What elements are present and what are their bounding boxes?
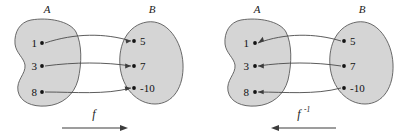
dot-b-7-forward bbox=[132, 64, 136, 68]
set-a-label-forward: A bbox=[43, 3, 51, 15]
set-b-label-forward: B bbox=[149, 3, 156, 15]
dot-a-8-forward bbox=[40, 90, 44, 94]
set-a-blob-inverse bbox=[225, 19, 291, 106]
panel-inverse: A B 1 3 8 5 7 -10 f -1 bbox=[225, 3, 393, 131]
panel-forward: A B 1 3 8 5 7 -10 f bbox=[15, 3, 183, 131]
dot-a-8-inverse bbox=[253, 90, 257, 94]
dot-b-5-inverse bbox=[342, 39, 346, 43]
set-a-blob-forward bbox=[15, 19, 81, 106]
label-b-neg10-forward: -10 bbox=[140, 82, 155, 94]
function-inverse-diagram: A B 1 3 8 5 7 -10 f bbox=[0, 0, 403, 138]
function-superscript-inverse: -1 bbox=[304, 105, 310, 114]
dot-b-neg10-forward bbox=[132, 86, 136, 90]
function-label-forward: f bbox=[92, 107, 97, 121]
dot-a-1-forward bbox=[40, 41, 44, 45]
dot-b-5-forward bbox=[132, 39, 136, 43]
label-b-5-inverse: 5 bbox=[350, 35, 356, 47]
dot-b-neg10-inverse bbox=[342, 86, 346, 90]
dot-a-3-inverse bbox=[253, 64, 257, 68]
dot-a-3-forward bbox=[40, 64, 44, 68]
label-b-5-forward: 5 bbox=[140, 35, 146, 47]
label-b-7-inverse: 7 bbox=[350, 60, 356, 72]
label-a-8-forward: 8 bbox=[32, 86, 38, 98]
label-b-7-forward: 7 bbox=[140, 60, 146, 72]
label-a-3-inverse: 3 bbox=[244, 60, 250, 72]
set-b-label-inverse: B bbox=[359, 3, 366, 15]
function-label-inverse: f bbox=[297, 107, 302, 121]
label-b-neg10-inverse: -10 bbox=[350, 82, 365, 94]
label-a-8-inverse: 8 bbox=[244, 86, 250, 98]
direction-arrowhead-forward bbox=[120, 125, 128, 131]
set-a-label-inverse: A bbox=[253, 3, 261, 15]
direction-arrowhead-inverse bbox=[271, 125, 279, 131]
label-a-3-forward: 3 bbox=[32, 60, 38, 72]
dot-a-1-inverse bbox=[253, 41, 257, 45]
label-a-1-inverse: 1 bbox=[244, 37, 250, 49]
dot-b-7-inverse bbox=[342, 64, 346, 68]
label-a-1-forward: 1 bbox=[32, 37, 38, 49]
